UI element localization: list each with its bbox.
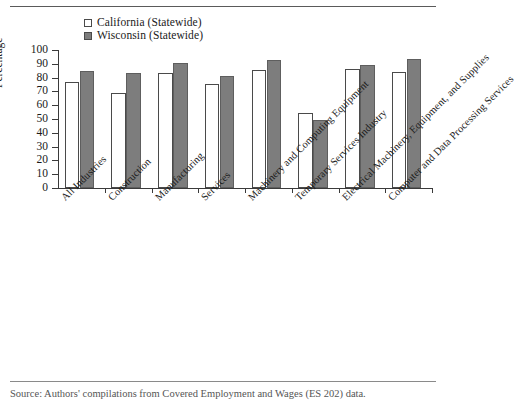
y-tick-label: 70 [20,84,48,96]
source-divider [10,381,436,382]
legend-item-wisconsin: Wisconsin (Statewide) [84,29,203,42]
top-divider [10,6,436,7]
y-tick-label: 20 [20,153,48,165]
legend-swatch-open-icon [84,19,92,27]
source-note: Source: Authors' compilations from Cover… [10,388,366,399]
legend-label-wisconsin: Wisconsin (Statewide) [97,29,203,42]
bar-california [111,93,126,188]
y-tick-label: 90 [20,57,48,69]
y-tick-label: 60 [20,98,48,110]
bar-california [65,82,80,188]
legend-item-california: California (Statewide) [84,16,203,29]
bar-california [205,84,220,188]
x-tick-mark [152,188,153,193]
y-axis-title: Percentage [0,38,4,88]
y-tick-label: 50 [20,112,48,124]
y-tick-label: 30 [20,140,48,152]
x-tick-mark [105,188,106,193]
y-tick-label: 40 [20,126,48,138]
x-tick-mark [432,188,433,193]
y-tick-mark [52,188,58,189]
x-tick-mark [385,188,386,193]
bar-california [252,70,267,188]
x-tick-mark [198,188,199,193]
legend-swatch-filled-icon [84,32,92,40]
y-tick-label: 10 [20,167,48,179]
y-tick-label: 100 [20,43,48,55]
x-tick-mark [292,188,293,193]
x-tick-mark [339,188,340,193]
y-tick-label: 80 [20,71,48,83]
x-tick-mark [245,188,246,193]
bar-california [158,73,173,188]
chart-legend: California (Statewide) Wisconsin (Statew… [84,16,203,42]
legend-label-california: California (Statewide) [97,16,202,29]
y-tick-label: 0 [20,181,48,193]
